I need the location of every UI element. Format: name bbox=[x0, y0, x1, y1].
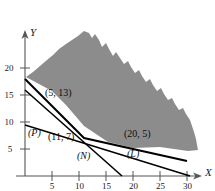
x-tick-label-5: 5 bbox=[46, 181, 58, 191]
y-tick-label-5: 5 bbox=[3, 144, 17, 154]
x-axis-label: X bbox=[205, 166, 212, 178]
y-tick-label-20: 20 bbox=[1, 63, 17, 73]
graph-figure: Y X 5 10 15 20 5 10 15 20 25 30 (5, 13) … bbox=[0, 0, 215, 191]
point-label-5-13: (5, 13) bbox=[45, 87, 72, 98]
line-label-P: (P) bbox=[28, 127, 41, 138]
x-tick-label-15: 15 bbox=[99, 181, 114, 191]
x-tick-label-25: 25 bbox=[153, 181, 168, 191]
y-axis-label: Y bbox=[30, 26, 36, 38]
point-label-11-7: (11, 7) bbox=[48, 131, 74, 142]
x-tick-label-20: 20 bbox=[126, 181, 141, 191]
line-label-N: (N) bbox=[77, 150, 90, 161]
x-tick-label-10: 10 bbox=[72, 181, 87, 191]
point-label-20-5: (20, 5) bbox=[124, 128, 151, 139]
y-tick-label-15: 15 bbox=[1, 90, 17, 100]
y-tick-label-10: 10 bbox=[1, 117, 17, 127]
line-label-L: (L) bbox=[127, 148, 139, 159]
x-tick-label-30: 30 bbox=[180, 181, 195, 191]
